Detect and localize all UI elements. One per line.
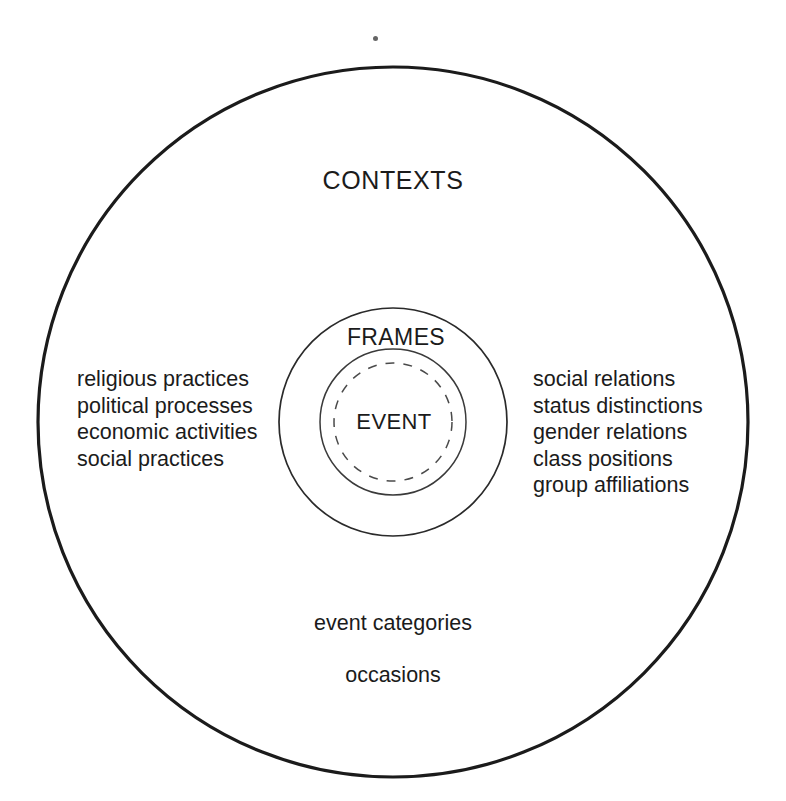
event-categories-label: event categories: [314, 613, 472, 635]
frames-ring-label: FRAMES: [347, 326, 445, 349]
list-item: economic activities: [77, 419, 257, 446]
list-item: gender relations: [533, 419, 703, 446]
event-ring-label: EVENT: [356, 411, 431, 433]
list-item: political processes: [77, 393, 257, 420]
list-item: social practices: [77, 446, 257, 473]
list-item: group affiliations: [533, 472, 703, 499]
list-item: class positions: [533, 446, 703, 473]
occasions-label: occasions: [345, 665, 441, 687]
list-item: social relations: [533, 366, 703, 393]
list-item: religious practices: [77, 366, 257, 393]
scan-artifact-speck: [373, 36, 378, 41]
contexts-ring-label: CONTEXTS: [323, 168, 464, 193]
list-item: status distinctions: [533, 393, 703, 420]
diagram-canvas: CONTEXTS FRAMES EVENT religious practice…: [0, 0, 786, 801]
contexts-left-list: religious practices political processes …: [77, 366, 257, 472]
contexts-right-list: social relations status distinctions gen…: [533, 366, 703, 499]
